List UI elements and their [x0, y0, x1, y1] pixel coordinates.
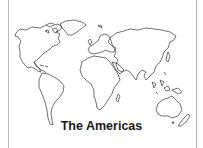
north-america-outline: [15, 24, 62, 72]
japan-outline: [166, 52, 170, 62]
africa-outline: [80, 56, 120, 110]
southeast-asia-islands-outline: [152, 72, 182, 94]
south-america-outline: [39, 73, 64, 125]
asia-outline: [110, 28, 176, 80]
british-isles-outline: [88, 25, 102, 45]
map-caption: The Americas: [0, 119, 203, 133]
australia-outline: [156, 96, 182, 118]
greenland-outline: [60, 20, 86, 35]
madagascar-outline: [116, 94, 120, 102]
